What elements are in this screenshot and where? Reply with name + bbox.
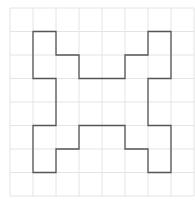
grid-diagram [0,0,195,203]
grid-lines [10,8,194,196]
